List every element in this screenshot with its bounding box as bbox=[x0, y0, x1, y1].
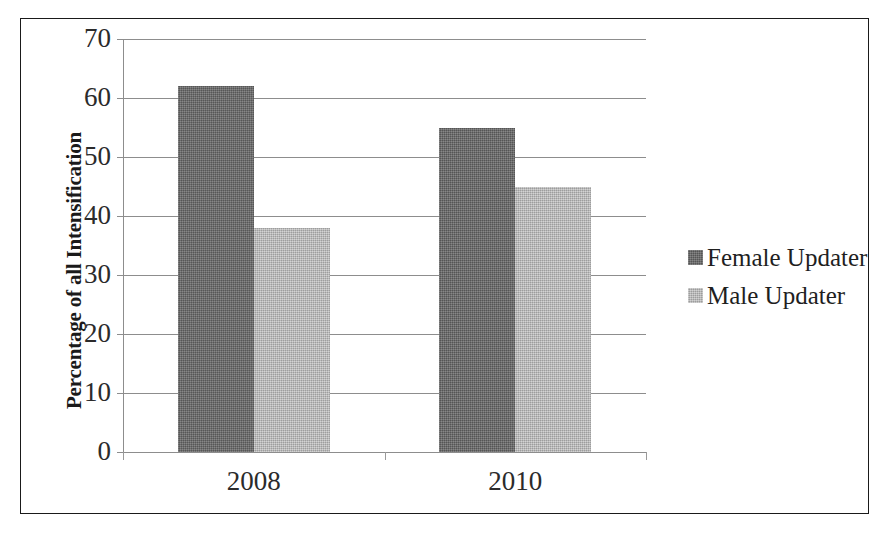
plot-area bbox=[123, 39, 646, 452]
bar-female-updater-2010 bbox=[439, 128, 515, 453]
y-axis-tick-label: 20 bbox=[51, 320, 111, 347]
legend-swatch-icon bbox=[688, 250, 703, 265]
bar-male-updater-2008 bbox=[254, 228, 330, 452]
chart-legend: Female UpdaterMale Updater bbox=[688, 238, 867, 314]
y-axis-tick-label: 70 bbox=[51, 25, 111, 52]
y-axis-tick-mark bbox=[117, 39, 124, 40]
x-axis-tick-mark bbox=[123, 452, 124, 460]
y-axis-tick-label: 40 bbox=[51, 202, 111, 229]
legend-item: Female Updater bbox=[688, 238, 867, 276]
legend-swatch-icon bbox=[688, 288, 703, 303]
y-axis-tick-mark bbox=[117, 216, 124, 217]
y-axis-tick-labels: 706050403020100 bbox=[45, 0, 111, 541]
y-axis-tick-mark bbox=[117, 157, 124, 158]
y-axis-tick-label: 60 bbox=[51, 84, 111, 111]
x-axis-tick-mark bbox=[646, 452, 647, 460]
y-axis-tick-label: 10 bbox=[51, 379, 111, 406]
y-axis-tick-label: 30 bbox=[51, 261, 111, 288]
y-axis-tick-mark bbox=[117, 334, 124, 335]
legend-item: Male Updater bbox=[688, 276, 867, 314]
bar-female-updater-2008 bbox=[178, 86, 254, 452]
x-axis-tick-label: 2008 bbox=[154, 468, 354, 495]
gridline bbox=[123, 39, 646, 40]
legend-label: Male Updater bbox=[707, 283, 845, 308]
bar-male-updater-2010 bbox=[515, 187, 591, 453]
x-axis-tick-mark bbox=[385, 452, 386, 460]
x-axis-tick-label: 2010 bbox=[415, 468, 615, 495]
y-axis-tick-mark bbox=[117, 393, 124, 394]
chart-figure: Percentage of all Intensification 706050… bbox=[0, 0, 892, 541]
y-axis-tick-mark bbox=[117, 275, 124, 276]
y-axis-tick-label: 50 bbox=[51, 143, 111, 170]
legend-label: Female Updater bbox=[707, 245, 867, 270]
y-axis-tick-mark bbox=[117, 98, 124, 99]
y-axis-tick-label: 0 bbox=[51, 438, 111, 465]
